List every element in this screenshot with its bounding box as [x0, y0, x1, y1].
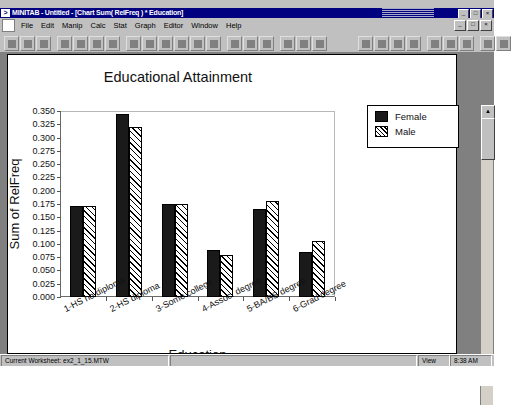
layout-icon-glyph [463, 40, 471, 48]
snap-icon[interactable] [480, 36, 495, 51]
find-icon[interactable] [280, 36, 295, 51]
menu-stat[interactable]: Stat [109, 20, 130, 31]
menu-bar: File Edit Manip Calc Stat Graph Editor W… [0, 18, 494, 34]
undo-icon[interactable] [126, 36, 141, 51]
new-icon-glyph [8, 40, 16, 48]
project-manager-icon[interactable] [206, 36, 221, 51]
y-axis-tick-label: 0.200 [9, 186, 60, 196]
bar-female[interactable] [299, 252, 312, 297]
bar-group[interactable] [162, 204, 188, 297]
toolbar-separator [121, 36, 125, 51]
help-pointer-icon[interactable] [296, 36, 311, 51]
grid-icon-glyph [431, 40, 439, 48]
doc-minimize-button[interactable]: _ [454, 20, 466, 31]
toolbar-separator [475, 36, 479, 51]
zoom-in-icon[interactable] [390, 36, 405, 51]
snap-icon-glyph [484, 40, 492, 48]
info-icon[interactable] [312, 36, 327, 51]
bar-male[interactable] [129, 127, 142, 297]
tool-icon[interactable] [496, 36, 511, 51]
workspace-area: Educational Attainment Female Male Sum [0, 52, 494, 354]
zoom-out-icon[interactable] [406, 36, 421, 51]
layout-icon[interactable] [459, 36, 474, 51]
font-icon[interactable] [358, 36, 373, 51]
copy-icon[interactable] [89, 36, 104, 51]
y-axis-tick-label: 0.225 [9, 172, 60, 182]
font-icon-glyph [362, 40, 370, 48]
graph-window-icon-glyph [178, 40, 186, 48]
bar-male[interactable] [83, 206, 96, 297]
legend-item-female[interactable]: Female [368, 109, 458, 124]
toolbar-left-group [4, 36, 327, 51]
scroll-thumb[interactable] [481, 118, 495, 160]
cut-icon-glyph [77, 40, 85, 48]
paste-icon-glyph [109, 40, 117, 48]
menu-file[interactable]: File [17, 20, 37, 31]
cut-icon[interactable] [73, 36, 88, 51]
menu-manip[interactable]: Manip [58, 20, 86, 31]
history-icon[interactable] [190, 36, 205, 51]
bar-female[interactable] [162, 204, 175, 297]
toolbar-separator [422, 36, 426, 51]
y-axis-tick-label: 0.275 [9, 146, 60, 156]
doc-close-button[interactable]: × [480, 20, 492, 31]
bar-female[interactable] [207, 250, 220, 297]
grid-icon[interactable] [427, 36, 442, 51]
menu-graph[interactable]: Graph [131, 20, 160, 31]
menu-calc[interactable]: Calc [86, 20, 109, 31]
zoom-in-icon-glyph [394, 40, 402, 48]
legend-label-female: Female [395, 111, 427, 122]
x-axis-tick-mark [335, 297, 336, 301]
bar-series-container [60, 111, 335, 297]
open-icon[interactable] [20, 36, 35, 51]
bar-male[interactable] [175, 204, 188, 297]
print-icon[interactable] [57, 36, 72, 51]
title-bar-texture [382, 8, 434, 18]
document-icon[interactable] [2, 19, 15, 32]
graph-window[interactable]: Educational Attainment Female Male Sum [7, 54, 457, 354]
edit-last-icon[interactable] [259, 36, 274, 51]
y-axis-tick-label: 0.050 [9, 265, 60, 275]
bar-male[interactable] [266, 201, 279, 297]
x-axis-tick-mark [243, 297, 244, 301]
y-axis-tick-label: 0.000 [9, 292, 60, 302]
brush-icon[interactable] [243, 36, 258, 51]
select-tool-icon[interactable] [227, 36, 242, 51]
bar-female[interactable] [116, 114, 129, 297]
paste-icon[interactable] [105, 36, 120, 51]
doc-restore-button[interactable]: □ [467, 20, 479, 31]
history-icon-glyph [194, 40, 202, 48]
bar-group[interactable] [70, 206, 96, 297]
window-title: MINITAB - Untitled - [Chart Sum( RelFreq… [12, 9, 183, 17]
worksheet-icon[interactable] [158, 36, 173, 51]
x-axis-tick-mark [289, 297, 290, 301]
find-icon-glyph [284, 40, 292, 48]
y-axis-tick-label: 0.150 [9, 212, 60, 222]
menu-window[interactable]: Window [187, 20, 222, 31]
bar-female[interactable] [70, 206, 83, 297]
session-window-icon[interactable] [142, 36, 157, 51]
annotate-icon-glyph [447, 40, 455, 48]
copy-icon-glyph [93, 40, 101, 48]
align-icon[interactable] [374, 36, 389, 51]
plot-area: Sum of RelFreq 0.3500.3250.3000.2750.250… [60, 111, 335, 297]
y-axis-tick-label: 0.250 [9, 159, 60, 169]
menu-help[interactable]: Help [222, 20, 245, 31]
menu-editor[interactable]: Editor [160, 20, 188, 31]
session-window-icon-glyph [146, 40, 154, 48]
legend-item-male[interactable]: Male [368, 124, 458, 139]
scroll-up-button[interactable]: ▲ [481, 105, 495, 119]
annotate-icon[interactable] [443, 36, 458, 51]
worksheet-icon-glyph [162, 40, 170, 48]
save-icon[interactable] [36, 36, 51, 51]
tool-icon-glyph [500, 40, 508, 48]
graph-window-icon[interactable] [174, 36, 189, 51]
bar-group[interactable] [116, 114, 142, 297]
toolbar-right-group [358, 36, 511, 51]
new-icon[interactable] [4, 36, 19, 51]
select-tool-icon-glyph [231, 40, 239, 48]
menu-edit[interactable]: Edit [37, 20, 58, 31]
y-axis-tick-mark [57, 297, 61, 298]
minitab-icon: > [1, 9, 10, 17]
info-icon-glyph [316, 40, 324, 48]
